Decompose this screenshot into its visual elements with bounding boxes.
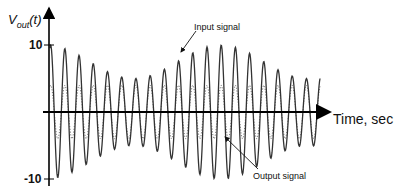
output-signal-annotation: Output signal <box>253 171 306 181</box>
input-signal-annotation: Input signal <box>194 22 240 32</box>
input-annotation-arrow <box>181 31 196 52</box>
x-axis-label: Time, sec <box>333 111 393 127</box>
y-axis-label: Vout(t) <box>8 12 41 30</box>
y-axis-label-arg: (t) <box>29 12 41 27</box>
y-axis-label-sub: out <box>17 20 30 30</box>
y-axis-label-main: V <box>8 12 17 27</box>
y-tick-label-10: 10 <box>29 38 42 52</box>
y-tick-label-minus-10: -10 <box>24 172 41 186</box>
